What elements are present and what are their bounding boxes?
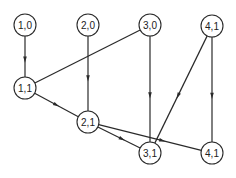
- arrowhead-icon: [159, 138, 166, 141]
- node-label: 4,1: [205, 21, 219, 32]
- edge-line: [155, 36, 207, 143]
- edge-4-1-to-4-1: [210, 37, 214, 142]
- node-2-0: 2,0: [77, 14, 99, 36]
- edge-1-0-to-1-1: [23, 36, 27, 77]
- edges-layer: [23, 30, 214, 150]
- arrowhead-icon: [86, 75, 90, 81]
- arrowhead-icon: [53, 102, 59, 107]
- node-label: 4,1: [205, 148, 219, 159]
- node-3-1: 3,1: [139, 142, 161, 164]
- node-2-1: 2,1: [77, 111, 99, 133]
- edge-1-1-to-2-1: [35, 93, 79, 117]
- node-3-0: 3,0: [139, 14, 161, 36]
- node-1-1: 1,1: [14, 77, 36, 99]
- node-label: 2,0: [81, 20, 95, 31]
- node-4-1: 4,1: [201, 142, 223, 164]
- edge-2-0-to-2-1: [86, 36, 90, 111]
- arrowhead-icon: [210, 93, 214, 99]
- arrowhead-icon: [118, 136, 125, 140]
- edge-3-0-to-3-1: [148, 36, 152, 142]
- node-label: 3,0: [143, 20, 157, 31]
- nodes-layer: 1,02,03,04,11,12,13,14,1: [14, 14, 223, 164]
- arrowhead-icon: [148, 92, 152, 98]
- directed-graph-diagram: 1,02,03,04,11,12,13,14,1: [0, 0, 236, 178]
- arrowhead-icon: [23, 56, 27, 62]
- node-label: 1,1: [18, 83, 32, 94]
- node-label: 3,1: [143, 148, 157, 159]
- node-4-1: 4,1: [201, 15, 223, 37]
- edge-4-1-to-3-1: [155, 36, 207, 143]
- node-1-0: 1,0: [14, 14, 36, 36]
- node-label: 1,0: [18, 20, 32, 31]
- node-label: 2,1: [81, 117, 95, 128]
- arrowhead-icon: [176, 92, 180, 99]
